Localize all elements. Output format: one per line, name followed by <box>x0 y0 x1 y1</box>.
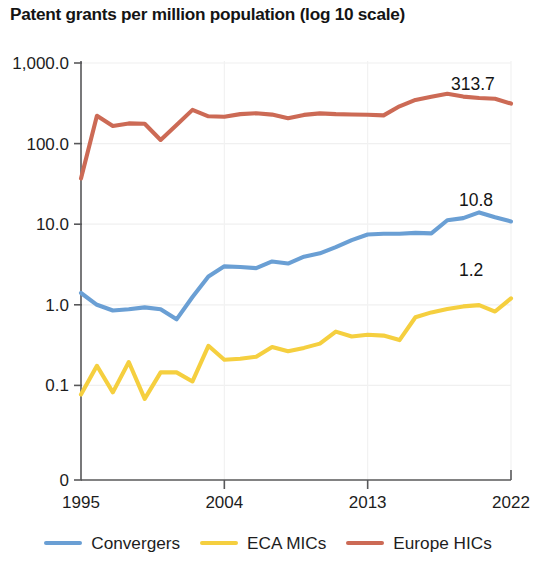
legend-label-eca-mics: ECA MICs <box>247 533 326 554</box>
chart-legend: Convergers ECA MICs Europe HICs <box>0 525 536 561</box>
value-annotations: 10.81.2313.7 <box>451 74 495 281</box>
chart-figure: Patent grants per million population (lo… <box>0 0 536 561</box>
y-tick-label: 1.0 <box>45 296 69 315</box>
value-label-eca-mics: 1.2 <box>459 260 483 280</box>
legend-label-europe-hics: Europe HICs <box>393 533 491 554</box>
x-tick-label: 2004 <box>205 493 243 512</box>
legend-label-convergers: Convergers <box>91 533 180 554</box>
x-axis-ticks: 1995200420132022 <box>62 480 530 512</box>
value-label-europe-hics: 313.7 <box>451 74 495 94</box>
y-tick-label: 100.0 <box>26 135 69 154</box>
value-label-convergers: 10.8 <box>459 190 493 210</box>
legend-swatch-convergers <box>44 541 82 546</box>
y-tick-label: 0.1 <box>45 376 69 395</box>
y-tick-label: 1,000.0 <box>12 54 69 73</box>
legend-item-eca-mics[interactable]: ECA MICs <box>200 533 326 554</box>
x-tick-label: 2022 <box>492 493 530 512</box>
series-line-eca-mics <box>81 298 511 398</box>
series-line-convergers <box>81 212 511 319</box>
y-tick-label: 0 <box>60 471 69 490</box>
legend-swatch-eca-mics <box>200 541 238 546</box>
legend-swatch-europe-hics <box>346 541 384 546</box>
series-line-europe-hics <box>81 94 511 179</box>
y-tick-label: 10.0 <box>36 215 69 234</box>
plot-area: 1,000.0100.010.01.00.10 1995200420132022… <box>0 0 536 525</box>
x-tick-label: 2013 <box>349 493 387 512</box>
y-axis-ticks: 1,000.0100.010.01.00.10 <box>12 54 82 490</box>
legend-item-convergers[interactable]: Convergers <box>44 533 180 554</box>
x-tick-label: 1995 <box>62 493 100 512</box>
series-lines <box>81 94 511 399</box>
legend-item-europe-hics[interactable]: Europe HICs <box>346 533 491 554</box>
